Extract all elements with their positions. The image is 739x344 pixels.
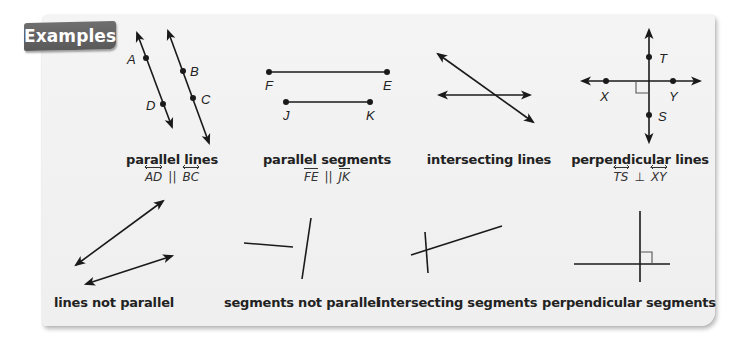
label-b: B	[190, 64, 199, 79]
point-d	[160, 101, 166, 107]
label-f: F	[265, 78, 274, 93]
segment-2	[302, 218, 311, 279]
line-symbol-xy: XY	[651, 166, 667, 183]
perpendicular-symbol: ⊥	[634, 171, 644, 183]
label-c: C	[201, 92, 211, 107]
line-symbol-ts: TS	[614, 166, 629, 183]
label-k: K	[366, 108, 376, 123]
notation-parallel-segments: FE || JK	[304, 166, 350, 183]
point-c	[190, 95, 196, 101]
label-d: D	[146, 98, 155, 113]
segment-symbol-jk: JK	[339, 166, 350, 183]
label-x: X	[599, 89, 610, 104]
line-1	[76, 201, 163, 265]
point-x	[603, 78, 609, 84]
line-2	[86, 256, 172, 284]
point-j	[283, 99, 289, 105]
parallel-lines-diagram: A B C D	[126, 31, 211, 143]
label-t: T	[659, 51, 668, 66]
segment-symbol-fe: FE	[304, 166, 318, 183]
point-t	[646, 54, 652, 60]
perpendicular-lines-diagram: T X Y S	[582, 30, 700, 142]
caption-segments-not-parallel: segments not parallel	[224, 295, 380, 310]
segment-diagonal	[411, 226, 502, 255]
point-s	[646, 112, 652, 118]
line-symbol-bc: BC	[182, 166, 199, 183]
intersecting-lines-diagram	[438, 54, 533, 122]
point-b	[180, 68, 186, 74]
parallel-symbol: ||	[168, 171, 176, 183]
point-k	[367, 99, 373, 105]
examples-figure: Examples A B C D F	[0, 0, 739, 344]
right-angle-mark	[636, 81, 649, 93]
lines-not-parallel-diagram	[76, 201, 172, 284]
line-symbol-ad: AD	[145, 166, 162, 183]
point-f	[266, 69, 272, 75]
label-e: E	[383, 78, 392, 93]
caption-lines-not-parallel: lines not parallel	[54, 295, 174, 310]
caption-perpendicular-segments: perpendicular segments	[542, 295, 716, 310]
label-s: S	[658, 109, 667, 124]
notation-perpendicular-lines: TS ⊥ XY	[614, 166, 667, 183]
caption-intersecting-segments: intersecting segments	[377, 295, 537, 310]
segment-vertical	[425, 232, 428, 273]
line-bc	[168, 31, 209, 143]
label-y: Y	[669, 89, 679, 104]
diagonal-line	[438, 54, 533, 122]
label-j: J	[282, 108, 290, 123]
caption-perpendicular-lines: perpendicular lines	[571, 152, 709, 167]
caption-parallel-segments: parallel segments	[263, 152, 391, 167]
segments-not-parallel-diagram	[244, 218, 311, 279]
caption-parallel-lines: parallel lines	[126, 152, 218, 167]
right-angle-mark	[640, 252, 652, 264]
intersecting-segments-diagram	[411, 226, 502, 273]
label-a: A	[126, 52, 136, 67]
point-y	[670, 78, 676, 84]
segment-1	[244, 243, 293, 247]
point-e	[384, 69, 390, 75]
perpendicular-segments-diagram	[574, 211, 670, 282]
parallel-symbol: ||	[324, 171, 332, 183]
parallel-segments-diagram: F E J K	[265, 69, 392, 123]
point-a	[143, 55, 149, 61]
notation-parallel-lines: AD || BC	[145, 166, 199, 183]
caption-intersecting-lines: intersecting lines	[427, 152, 551, 167]
